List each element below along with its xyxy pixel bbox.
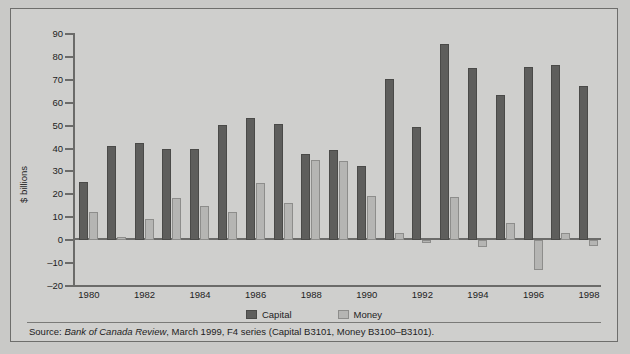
y-tick-mark bbox=[65, 148, 75, 150]
y-tick-mark bbox=[65, 216, 75, 218]
x-tick-label: 1998 bbox=[569, 290, 609, 300]
y-tick-mark bbox=[65, 170, 75, 172]
bar-capital bbox=[274, 124, 283, 240]
bar-group bbox=[270, 34, 298, 286]
bar-group bbox=[353, 34, 381, 286]
bar-group bbox=[464, 34, 492, 286]
y-tick-label: 60 bbox=[19, 98, 63, 108]
x-tick-label: 1980 bbox=[69, 290, 109, 300]
bar-money bbox=[450, 197, 459, 240]
x-tick-label: 1984 bbox=[180, 290, 220, 300]
bar-money bbox=[172, 198, 181, 241]
bar-capital bbox=[190, 149, 199, 240]
bar-series-container bbox=[75, 34, 603, 287]
bar-group bbox=[242, 34, 270, 286]
legend-label: Capital bbox=[262, 309, 292, 320]
bar-money bbox=[311, 160, 320, 240]
bar-capital bbox=[107, 146, 116, 240]
x-tick-label: 1988 bbox=[291, 290, 331, 300]
bar-money bbox=[506, 223, 515, 240]
y-tick-mark bbox=[65, 56, 75, 58]
bar-money bbox=[339, 161, 348, 240]
bar-capital bbox=[135, 143, 144, 240]
bar-capital bbox=[79, 182, 88, 240]
legend-swatch-money bbox=[338, 310, 349, 319]
bar-capital bbox=[218, 125, 227, 240]
y-tick-label: 70 bbox=[19, 75, 63, 85]
bar-money bbox=[534, 240, 543, 270]
x-tick-label: 1996 bbox=[514, 290, 554, 300]
y-tick-label: –10 bbox=[19, 258, 63, 268]
bar-group bbox=[520, 34, 548, 286]
bar-capital bbox=[246, 118, 255, 241]
bar-capital bbox=[524, 67, 533, 240]
y-tick-mark bbox=[65, 102, 75, 104]
bar-capital bbox=[329, 150, 338, 240]
bar-capital bbox=[412, 127, 421, 240]
bar-capital bbox=[440, 44, 449, 240]
bar-group bbox=[75, 34, 103, 286]
y-tick-mark bbox=[65, 79, 75, 81]
x-tick-label: 1994 bbox=[458, 290, 498, 300]
legend-swatch-capital bbox=[246, 310, 257, 319]
bar-capital bbox=[496, 95, 505, 240]
y-tick-label: 90 bbox=[19, 29, 63, 39]
bar-group bbox=[381, 34, 409, 286]
x-tick-label: 1982 bbox=[124, 290, 164, 300]
bar-money bbox=[561, 233, 570, 240]
x-tick-label: 1986 bbox=[236, 290, 276, 300]
bar-money bbox=[395, 233, 404, 241]
bar-group bbox=[408, 34, 436, 286]
bar-group bbox=[214, 34, 242, 286]
y-tick-label: –20 bbox=[19, 281, 63, 291]
source-divider bbox=[27, 322, 601, 323]
y-tick-mark bbox=[65, 193, 75, 195]
y-tick-mark bbox=[65, 33, 75, 35]
x-tick-label: 1990 bbox=[347, 290, 387, 300]
bar-capital bbox=[579, 86, 588, 241]
y-tick-mark bbox=[65, 125, 75, 127]
legend-label: Money bbox=[354, 309, 383, 320]
bar-group bbox=[103, 34, 131, 286]
bar-group bbox=[575, 34, 603, 286]
bar-group bbox=[492, 34, 520, 286]
bar-capital bbox=[385, 79, 394, 241]
bar-money bbox=[200, 206, 209, 240]
bar-capital bbox=[468, 68, 477, 240]
bar-group bbox=[297, 34, 325, 286]
y-axis-title: $ billions bbox=[18, 150, 29, 220]
bar-money bbox=[367, 196, 376, 240]
bar-money bbox=[145, 219, 154, 240]
bar-capital bbox=[301, 154, 310, 241]
bar-money bbox=[589, 240, 598, 246]
bar-group bbox=[186, 34, 214, 286]
legend-item[interactable]: Money bbox=[338, 309, 383, 320]
bar-money bbox=[228, 212, 237, 241]
source-publication: Bank of Canada Review bbox=[64, 326, 166, 337]
bar-money bbox=[284, 203, 293, 240]
plot-area: 9080706050403020100–10–20 $ billions 198… bbox=[11, 9, 617, 341]
y-tick-label: 80 bbox=[19, 52, 63, 62]
legend-item[interactable]: Capital bbox=[246, 309, 292, 320]
x-tick-label: 1992 bbox=[402, 290, 442, 300]
source-note: Source: Bank of Canada Review, March 199… bbox=[29, 326, 434, 337]
bar-capital bbox=[551, 65, 560, 240]
y-tick-mark bbox=[65, 262, 75, 264]
chart-legend: CapitalMoney bbox=[11, 309, 617, 320]
source-suffix: , March 1999, F4 series (Capital B3101, … bbox=[166, 326, 434, 337]
source-prefix: Source: bbox=[29, 326, 64, 337]
y-tick-label: 0 bbox=[19, 235, 63, 245]
bar-group bbox=[158, 34, 186, 286]
chart-figure: 9080706050403020100–10–20 $ billions 198… bbox=[10, 8, 618, 342]
bar-group bbox=[325, 34, 353, 286]
bar-capital bbox=[162, 149, 171, 240]
x-axis-labels: 1980198219841986198819901992199419961998 bbox=[75, 290, 603, 306]
bar-money bbox=[478, 240, 487, 246]
y-tick-label: 50 bbox=[19, 121, 63, 131]
bar-money bbox=[89, 212, 98, 240]
bar-money bbox=[117, 237, 126, 240]
bar-group bbox=[547, 34, 575, 286]
bar-group bbox=[436, 34, 464, 286]
bar-group bbox=[131, 34, 159, 286]
bar-money bbox=[256, 183, 265, 240]
